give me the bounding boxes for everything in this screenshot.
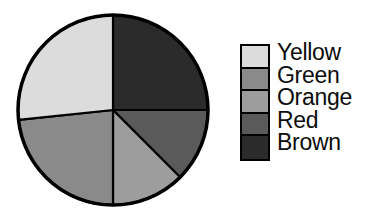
legend-swatch-yellow[interactable] — [242, 46, 268, 69]
legend-label-brown: Brown — [277, 131, 352, 154]
pie-chart — [14, 8, 214, 213]
legend-label-column: YellowGreenOrangeRedBrown — [277, 41, 352, 154]
legend-swatch-orange[interactable] — [242, 91, 268, 114]
legend-swatch-brown[interactable] — [242, 136, 268, 159]
legend-swatch-red[interactable] — [242, 114, 268, 137]
pie-chart-svg — [14, 8, 214, 213]
legend-swatch-column — [240, 44, 270, 161]
legend-label-yellow: Yellow — [277, 41, 352, 64]
legend-swatch-green[interactable] — [242, 69, 268, 92]
legend-label-green: Green — [277, 64, 352, 87]
legend-label-orange: Orange — [277, 86, 352, 109]
pie-slice-yellow[interactable] — [18, 15, 113, 120]
legend-label-red: Red — [277, 109, 352, 132]
chart-legend: YellowGreenOrangeRedBrown — [240, 44, 352, 161]
pie-chart-figure: YellowGreenOrangeRedBrown — [0, 0, 385, 217]
